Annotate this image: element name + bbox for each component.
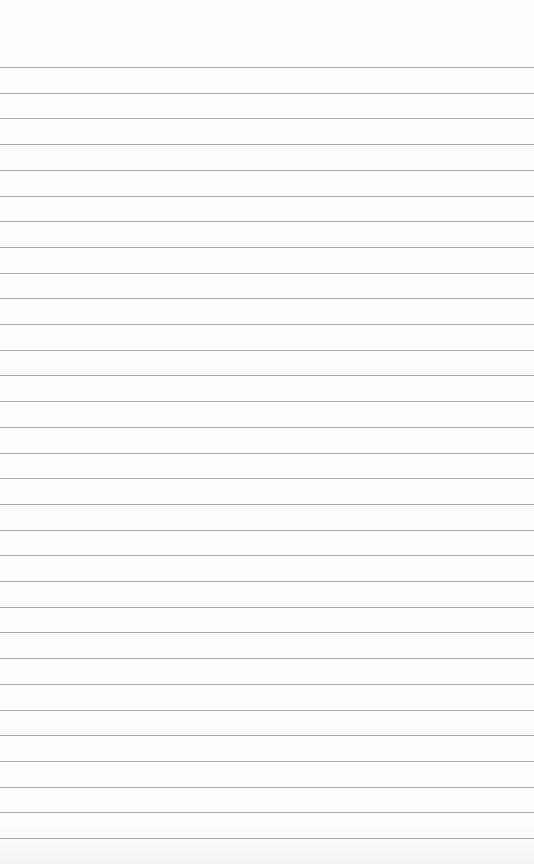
ruled-line xyxy=(0,93,534,94)
ruled-line xyxy=(0,144,534,145)
ruled-line xyxy=(0,67,534,68)
ruled-line xyxy=(0,170,534,171)
ruled-line xyxy=(0,787,534,788)
ruled-line xyxy=(0,478,534,479)
ruled-line xyxy=(0,427,534,428)
ruled-line xyxy=(0,581,534,582)
ruled-line xyxy=(0,273,534,274)
ruled-line xyxy=(0,761,534,762)
ruled-line xyxy=(0,221,534,222)
ruled-line xyxy=(0,607,534,608)
paper-shadow xyxy=(0,824,534,864)
ruled-line xyxy=(0,453,534,454)
ruled-line xyxy=(0,401,534,402)
ruled-line xyxy=(0,350,534,351)
lined-paper xyxy=(0,0,534,864)
ruled-line xyxy=(0,735,534,736)
ruled-line xyxy=(0,684,534,685)
ruled-line xyxy=(0,118,534,119)
ruled-line xyxy=(0,658,534,659)
ruled-line xyxy=(0,298,534,299)
ruled-line xyxy=(0,838,534,839)
ruled-line xyxy=(0,375,534,376)
ruled-line xyxy=(0,247,534,248)
ruled-line xyxy=(0,710,534,711)
ruled-line xyxy=(0,812,534,813)
ruled-line xyxy=(0,504,534,505)
ruled-line xyxy=(0,196,534,197)
ruled-line xyxy=(0,324,534,325)
ruled-line xyxy=(0,632,534,633)
ruled-line xyxy=(0,555,534,556)
ruled-line xyxy=(0,530,534,531)
